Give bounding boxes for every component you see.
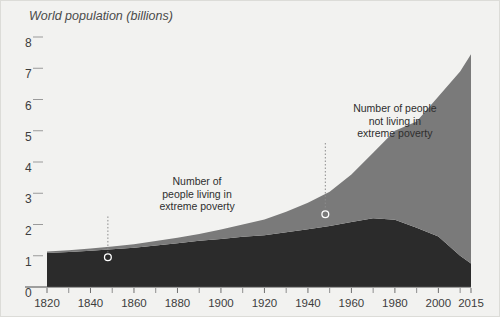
x-tick-label: 1920 <box>252 297 278 309</box>
y-tick-label: 8 <box>25 36 32 50</box>
poverty-annotation-line: people living in <box>162 188 232 200</box>
non-poverty-annotation-line: not living in <box>369 115 422 127</box>
non-poverty-annotation-line: extreme poverty <box>357 127 433 139</box>
x-tick-label: 1960 <box>339 297 365 309</box>
y-tick-label: 3 <box>25 192 32 206</box>
poverty-annotation-line: Number of <box>173 175 222 187</box>
y-tick-label: 5 <box>25 130 32 144</box>
poverty-annotation-line: extreme poverty <box>159 200 235 212</box>
x-tick-label: 2015 <box>458 297 484 309</box>
y-tick-label: 4 <box>25 161 32 175</box>
x-tick-label: 1820 <box>34 297 60 309</box>
x-tick-label: 1940 <box>295 297 321 309</box>
x-tick-label: 1840 <box>78 297 104 309</box>
stacked-area-series <box>47 54 471 287</box>
x-tick-label: 1980 <box>382 297 408 309</box>
x-axis-tick-labels: 1820184018601880190019201940196019802000… <box>34 297 484 309</box>
y-tick-label: 1 <box>25 255 32 269</box>
area-chart-plot: 012345678 182018401860188019001920194019… <box>1 1 500 317</box>
y-tick-label: 2 <box>25 224 32 238</box>
x-tick-label: 1880 <box>165 297 191 309</box>
x-tick-label: 1900 <box>208 297 234 309</box>
chart-frame: World population (billions) 012345678 18… <box>0 0 500 317</box>
y-tick-label: 7 <box>25 67 32 81</box>
x-tick-label: 2000 <box>426 297 452 309</box>
x-tick-label: 1860 <box>121 297 147 309</box>
y-tick-label: 6 <box>25 99 32 113</box>
non-poverty-annotation-line: Number of people <box>353 102 437 114</box>
y-tick-label: 0 <box>25 286 32 300</box>
y-axis-tick-labels: 012345678 <box>25 36 32 300</box>
